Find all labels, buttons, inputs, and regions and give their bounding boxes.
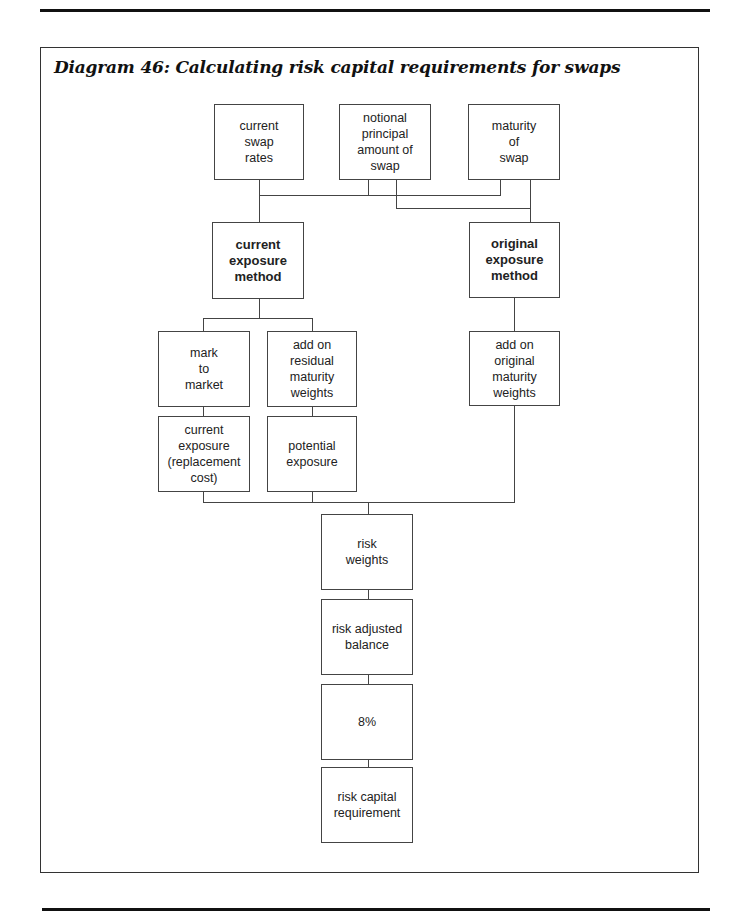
connector <box>368 675 369 684</box>
node-eight-percent: 8% <box>321 684 413 760</box>
node-current-exposure: current exposure (replacement cost) <box>158 416 250 492</box>
connector <box>259 195 501 196</box>
node-add-on-residual: add on residual maturity weights <box>267 331 357 407</box>
node-risk-capital-requirement: risk capital requirement <box>321 767 413 843</box>
connector <box>396 180 397 208</box>
node-notional-principal: notional principal amount of swap <box>339 104 431 180</box>
node-potential-exposure: potential exposure <box>267 416 357 492</box>
connector <box>312 318 313 331</box>
connector <box>530 180 531 223</box>
connector <box>500 180 501 195</box>
node-original-exposure-method: original exposure method <box>469 222 560 298</box>
connector <box>514 298 515 331</box>
connector <box>368 590 369 599</box>
connector <box>368 760 369 767</box>
connector <box>203 318 204 331</box>
node-maturity-of-swap: maturity of swap <box>468 104 560 180</box>
connector <box>312 407 313 416</box>
connector <box>514 406 515 503</box>
node-current-swap-rates: current swap rates <box>214 104 304 180</box>
node-risk-adjusted-balance: risk adjusted balance <box>321 599 413 675</box>
connector <box>368 180 369 195</box>
bottom-rule <box>42 908 710 911</box>
node-add-on-original: add on original maturity weights <box>469 331 560 406</box>
connector <box>203 407 204 416</box>
connector <box>203 502 515 503</box>
connector <box>259 299 260 318</box>
node-risk-weights: risk weights <box>321 514 413 590</box>
diagram-title: Diagram 46: Calculating risk capital req… <box>54 57 620 77</box>
node-mark-to-market: mark to market <box>158 331 250 407</box>
node-current-exposure-method: current exposure method <box>212 222 304 299</box>
connector <box>203 318 313 319</box>
connector <box>368 502 369 514</box>
connector <box>259 180 260 223</box>
top-rule <box>40 9 710 12</box>
connector <box>396 208 531 209</box>
